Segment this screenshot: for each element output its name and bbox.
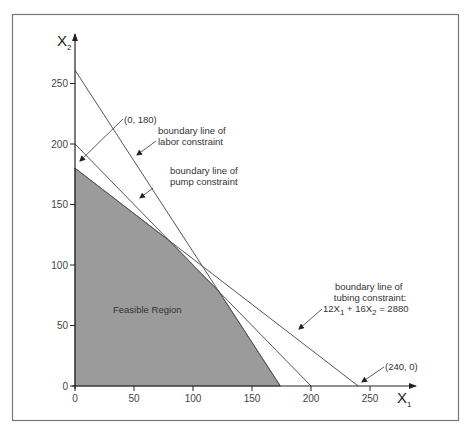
svg-text:50: 50: [57, 320, 69, 331]
annotation-arrow-0-180: [80, 119, 123, 161]
x-tick-labels: 0 50 100 150 200 250: [72, 393, 379, 404]
svg-text:50: 50: [128, 393, 140, 404]
x-axis-title: X1: [397, 389, 412, 409]
annotation-tubing-constraint: boundary line of tubing constraint:: [334, 281, 406, 303]
annotation-arrow-labor: [137, 141, 156, 155]
annotation-point-240-0: (240, 0): [385, 361, 418, 372]
svg-text:250: 250: [362, 393, 379, 404]
svg-text:200: 200: [51, 139, 68, 150]
y-tick-labels: 0 50 100 150 200 250: [51, 78, 68, 392]
svg-text:100: 100: [185, 393, 202, 404]
svg-text:250: 250: [51, 78, 68, 89]
svg-text:150: 150: [244, 393, 261, 404]
feasible-region: [75, 168, 280, 386]
svg-text:0: 0: [72, 393, 78, 404]
annotation-arrow-240-0: [362, 367, 384, 382]
feasible-region-label: Feasible Region: [113, 304, 182, 315]
y-axis-title: X2: [57, 32, 72, 52]
y-ticks: [70, 84, 75, 387]
svg-text:0: 0: [62, 381, 68, 392]
annotation-labor-constraint: boundary line of labor constraint: [158, 125, 228, 147]
annotation-tubing-equation: 12X1 + 16X2 = 2880: [323, 303, 409, 317]
svg-text:200: 200: [303, 393, 320, 404]
annotation-pump-constraint: boundary line of pump constraint: [170, 165, 240, 187]
svg-text:100: 100: [51, 260, 68, 271]
annotation-arrow-tubing: [299, 309, 322, 329]
x-ticks: [75, 386, 370, 391]
annotation-point-0-180: (0, 180): [124, 114, 157, 125]
lp-chart: 0 50 100 150 200 250 0 50 100 150 200 25…: [0, 0, 467, 431]
svg-text:150: 150: [51, 199, 68, 210]
annotation-arrow-pump: [140, 188, 153, 198]
